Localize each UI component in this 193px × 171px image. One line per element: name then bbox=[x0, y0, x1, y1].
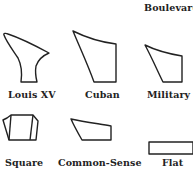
louis-xv-heel-shape bbox=[4, 33, 49, 82]
label-louis-xv: Louis XV bbox=[8, 89, 56, 100]
label-military: Military bbox=[147, 89, 190, 100]
military-heel-shape bbox=[145, 45, 182, 82]
common-sense-heel-shape bbox=[71, 119, 111, 140]
square-heel-inner-line-right bbox=[30, 115, 33, 140]
label-cuban: Cuban bbox=[85, 89, 120, 100]
label-common-sense: Common-Sense bbox=[58, 157, 142, 168]
cuban-heel-shape bbox=[73, 31, 116, 82]
flat-heel-shape bbox=[149, 142, 193, 154]
label-square: Square bbox=[5, 157, 43, 168]
square-heel-inner-line-left bbox=[9, 115, 11, 140]
label-flat: Flat bbox=[162, 157, 183, 168]
label-boulevard: Boulevard bbox=[144, 2, 193, 13]
heel-shapes bbox=[0, 0, 193, 171]
